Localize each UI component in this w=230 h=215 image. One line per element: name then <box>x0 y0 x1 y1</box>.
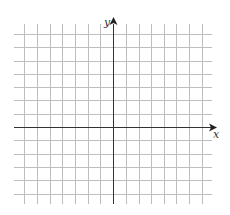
y-axis-label: y <box>103 16 111 29</box>
y-axis-arrow-icon <box>110 17 118 25</box>
coordinate-grid: x y <box>0 0 230 215</box>
x-axis-label: x <box>213 128 220 141</box>
